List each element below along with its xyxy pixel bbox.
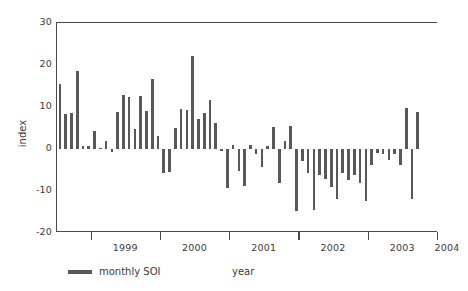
y-tick-label: -20 <box>16 227 52 237</box>
x-tick-label: 2001 <box>242 242 286 254</box>
bar <box>139 96 142 149</box>
bar <box>405 108 408 149</box>
bar <box>203 113 206 149</box>
bar <box>232 145 235 149</box>
bar <box>249 145 252 149</box>
bar <box>318 149 321 175</box>
bar <box>111 149 114 152</box>
x-tick-label: 1999 <box>103 242 147 254</box>
bar <box>87 146 90 149</box>
bar <box>324 149 327 179</box>
bar <box>289 126 292 149</box>
bar <box>162 149 165 173</box>
bar <box>301 149 304 161</box>
bar <box>174 128 177 149</box>
x-axis-ticks: 199920002001200220032004 <box>56 232 437 258</box>
bar <box>209 100 212 149</box>
bar <box>313 149 316 210</box>
x-tick-mark <box>437 232 438 240</box>
x-tick-label: 2000 <box>173 242 217 254</box>
x-tick-mark <box>229 232 230 240</box>
x-tick-label: 2002 <box>311 242 355 254</box>
bar <box>70 113 73 149</box>
bar <box>416 112 419 149</box>
y-axis-title: index <box>17 104 28 164</box>
bar <box>116 112 119 149</box>
bar <box>157 136 160 149</box>
bar <box>307 149 310 173</box>
bar <box>255 149 258 154</box>
x-tick-mark <box>298 232 299 240</box>
chart-legend: monthly SOI <box>68 266 161 277</box>
bar <box>359 149 362 183</box>
x-tick-mark <box>368 232 369 240</box>
legend-swatch-monthly-soi <box>68 270 92 274</box>
bar <box>191 56 194 149</box>
bar <box>214 123 217 149</box>
bar <box>151 79 154 149</box>
y-tick-label: 30 <box>16 17 52 27</box>
y-tick-label: 20 <box>16 59 52 69</box>
bar <box>145 111 148 149</box>
x-axis-title: year <box>232 266 254 277</box>
bar <box>134 129 137 149</box>
bar <box>122 95 125 149</box>
bar <box>370 149 373 165</box>
bar <box>238 149 241 171</box>
legend-label-monthly-soi: monthly SOI <box>99 266 161 277</box>
bar <box>393 149 396 154</box>
bar <box>295 149 298 211</box>
bar <box>180 109 183 149</box>
y-axis-ticks: 3020100-10-20 <box>8 22 52 232</box>
bar <box>382 149 385 154</box>
bar <box>330 149 333 187</box>
bar <box>64 114 67 149</box>
bar <box>105 141 108 149</box>
bars-layer <box>57 23 437 231</box>
x-tick-mark <box>160 232 161 240</box>
bar <box>93 131 96 149</box>
bar <box>59 84 62 149</box>
bar <box>82 146 85 149</box>
bar <box>197 119 200 149</box>
x-tick-label: 2004 <box>425 242 468 254</box>
y-tick-label: -10 <box>16 185 52 195</box>
bar <box>128 97 131 150</box>
bar <box>226 149 229 188</box>
bar <box>284 141 287 149</box>
bar <box>261 149 264 167</box>
bar <box>341 149 344 173</box>
bar <box>365 149 368 201</box>
bar <box>186 110 189 149</box>
bar <box>388 149 391 160</box>
bar <box>168 149 171 172</box>
bar <box>399 149 402 165</box>
bar <box>353 149 356 175</box>
x-tick-mark <box>91 232 92 240</box>
bar <box>76 71 79 149</box>
plot-area <box>56 22 437 232</box>
bar <box>347 149 350 180</box>
bar <box>272 127 275 149</box>
bar <box>336 149 339 199</box>
bar <box>220 149 223 151</box>
x-tick-label: 2003 <box>380 242 424 254</box>
soi-bar-chart-figure: 3020100-10-20 index 19992000200120022003… <box>0 0 468 291</box>
bar <box>266 146 269 149</box>
bar <box>243 149 246 186</box>
bar <box>411 149 414 199</box>
bar <box>376 149 379 153</box>
bar <box>99 148 102 149</box>
bar <box>278 149 281 183</box>
